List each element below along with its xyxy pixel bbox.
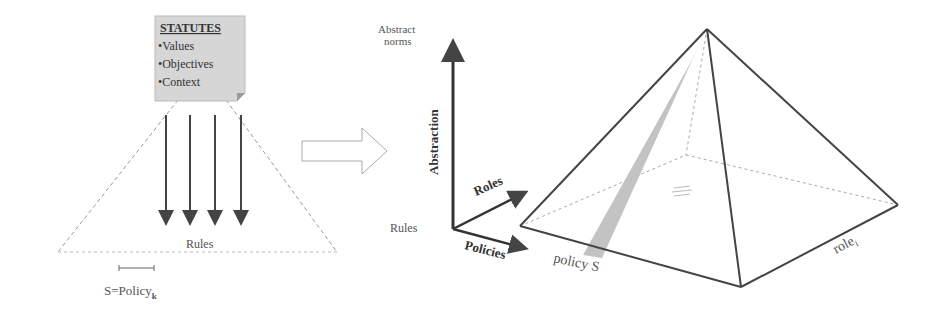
roles-axis: [453, 193, 524, 229]
statutes-item-context: •Context: [158, 75, 201, 89]
rules-label: Rules: [186, 237, 214, 251]
statutes-note: STATUTES •Values •Objectives •Context: [155, 16, 245, 101]
roles-axis-label: Roles: [471, 173, 505, 199]
abstraction-axis-label: Abstraction: [426, 109, 441, 175]
policy-scale-bar: [119, 265, 154, 271]
role-label: rolei: [830, 232, 860, 259]
policy-slice: [583, 32, 705, 258]
abstract-norms-label-line1: Abstract: [378, 23, 415, 35]
axes: [453, 44, 524, 248]
statutes-item-values: •Values: [158, 39, 195, 53]
origin-rules-label: Rules: [390, 221, 418, 235]
right-panel: Abstract norms Abstraction Rules Roles P…: [378, 23, 898, 287]
statutes-item-objectives: •Objectives: [158, 57, 214, 71]
rule-arrows: [166, 115, 241, 222]
center-mark: [672, 186, 692, 196]
rules-trapezoid: [58, 100, 337, 252]
statutes-title: STATUTES: [160, 21, 221, 35]
abstract-norms-label-line2: norms: [384, 35, 412, 47]
left-panel: STATUTES •Values •Objectives •Context Ru…: [58, 16, 337, 301]
transition-arrow-icon: [302, 128, 387, 174]
policy-abstraction-diagram: STATUTES •Values •Objectives •Context Ru…: [0, 0, 951, 313]
policy-scale-label: S=Policyk: [104, 283, 157, 301]
